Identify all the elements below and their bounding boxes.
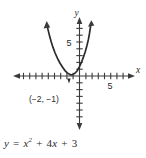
y-axis-tick-label-5: 5 — [67, 38, 72, 48]
coordinate-plane-graph: x y 5 5 (−2, −1) — [0, 0, 146, 135]
equation-lhs: y — [4, 137, 9, 149]
parabola-right-arrow-icon — [88, 20, 94, 27]
y-axis-label: y — [74, 8, 80, 18]
x-axis-left-arrow-icon — [13, 73, 20, 79]
x-axis-right-arrow-icon — [128, 73, 135, 79]
equation-term3-constant: 3 — [72, 137, 78, 149]
equation-caption: y = x2 + 4x + 3 — [4, 136, 77, 149]
vertex-coordinate-label: (−2, −1) — [29, 94, 59, 104]
parabola-curve — [47, 24, 91, 75]
equation-equals: = — [12, 137, 20, 149]
equation-term2-variable: x — [52, 137, 57, 149]
equation-term1-exponent: 2 — [29, 136, 33, 144]
x-axis-tick-label-5: 5 — [108, 81, 113, 91]
vertex-marker — [67, 79, 70, 84]
equation-plus-2: + — [60, 137, 68, 149]
equation-plus-1: + — [35, 137, 43, 149]
y-axis-down-arrow-icon — [77, 123, 83, 130]
parabola-left-arrow-icon — [44, 21, 51, 28]
x-axis-label: x — [135, 65, 141, 75]
y-axis-up-arrow-icon — [77, 17, 83, 24]
figure-container: x y 5 5 (−2, −1) y = x2 + 4x + 3 — [0, 0, 146, 158]
